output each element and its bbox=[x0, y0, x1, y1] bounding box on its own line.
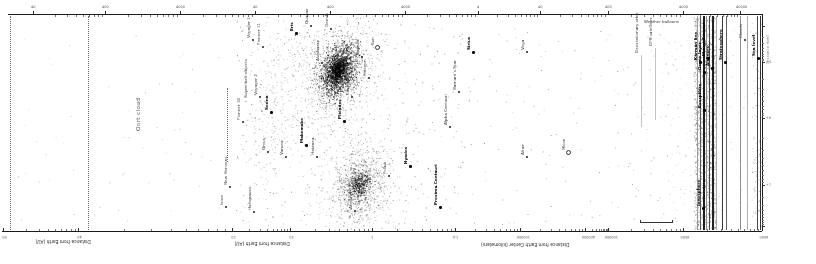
top-axis-minor-tick bbox=[676, 15, 677, 17]
bottom-axis-major-tick bbox=[372, 228, 373, 231]
right-axis-minor-tick bbox=[762, 106, 764, 107]
object-marker-dot bbox=[351, 96, 353, 98]
top-axis-minor-tick bbox=[601, 15, 602, 17]
right-axis-minor-tick bbox=[762, 170, 764, 171]
top-axis-minor-tick bbox=[366, 15, 367, 17]
altitude-line bbox=[740, 16, 741, 230]
object-label: Haumea bbox=[311, 138, 315, 155]
top-axis-minor-tick bbox=[238, 15, 239, 17]
bottom-axis-minor-tick bbox=[596, 229, 597, 231]
top-axis-minor-tick bbox=[313, 15, 314, 17]
bottom-axis-major-tick bbox=[585, 228, 586, 231]
right-axis-minor-tick bbox=[762, 175, 764, 176]
top-axis-minor-tick bbox=[737, 15, 738, 17]
top-axis-minor-tick bbox=[467, 15, 468, 17]
bottom-axis-minor-tick bbox=[26, 229, 27, 231]
bottom-axis-minor-tick bbox=[510, 229, 511, 231]
object-label: Alpha Centauri bbox=[444, 94, 448, 125]
range-bracket bbox=[640, 220, 673, 223]
bottom-axis-tick-label: 10 bbox=[289, 235, 293, 239]
top-axis-minor-tick bbox=[734, 15, 735, 17]
top-axis-minor-tick bbox=[98, 15, 99, 17]
bottom-axis-minor-tick bbox=[260, 229, 261, 231]
bottom-axis-minor-tick bbox=[631, 229, 632, 231]
top-axis-tick-label: 4000 bbox=[401, 5, 410, 9]
bottom-axis-minor-tick bbox=[707, 229, 708, 231]
object-marker-dot bbox=[449, 126, 451, 128]
bottom-axis-minor-tick bbox=[565, 229, 566, 231]
top-axis-minor-tick bbox=[597, 15, 598, 17]
object-marker-dot bbox=[702, 207, 705, 210]
object-marker-dot bbox=[285, 156, 287, 158]
bottom-axis-minor-tick bbox=[540, 229, 541, 231]
top-axis-minor-tick bbox=[393, 15, 394, 17]
top-axis-minor-tick bbox=[717, 15, 718, 17]
top-axis-tick-label: 40 bbox=[538, 5, 542, 9]
top-axis-minor-tick bbox=[440, 15, 441, 17]
object-marker-dot bbox=[262, 46, 264, 48]
object-marker-dot bbox=[242, 121, 244, 123]
bottom-axis-minor-tick bbox=[368, 229, 369, 231]
bottom-axis-minor-tick bbox=[750, 229, 751, 231]
right-axis-tick-label: +7 bbox=[766, 183, 771, 187]
bottom-axis-major-tick bbox=[78, 228, 79, 231]
top-axis-minor-tick bbox=[94, 15, 95, 17]
object-label: Aldebaran bbox=[316, 40, 320, 61]
top-axis-major-tick bbox=[478, 11, 479, 14]
object-marker-dot bbox=[703, 71, 706, 74]
top-axis-minor-tick bbox=[526, 15, 527, 17]
right-axis-minor-tick bbox=[762, 56, 764, 57]
bottom-axis-minor-tick bbox=[364, 229, 365, 231]
right-axis-minor-tick bbox=[762, 48, 764, 49]
top-axis-minor-tick bbox=[102, 15, 103, 17]
top-axis-minor-tick bbox=[588, 15, 589, 17]
object-label: Capella bbox=[356, 39, 360, 55]
object-label: Weather balloons bbox=[644, 20, 679, 24]
bottom-axis-title: Distance from Earth Center (kilometers) bbox=[481, 242, 569, 246]
top-axis-minor-tick bbox=[388, 15, 389, 17]
right-axis-minor-tick bbox=[762, 150, 764, 151]
bottom-axis-minor-tick bbox=[447, 229, 448, 231]
top-axis-minor-tick bbox=[128, 15, 129, 17]
right-axis-minor-tick bbox=[762, 179, 764, 180]
bottom-axis-major-tick bbox=[232, 228, 233, 231]
object-marker-line bbox=[655, 48, 656, 120]
object-marker-dot bbox=[229, 186, 231, 188]
altitude-line bbox=[760, 16, 761, 230]
bottom-axis-tick-label: 100000 bbox=[604, 235, 617, 239]
object-label: Voyager 1 bbox=[247, 17, 251, 38]
bottom-axis-minor-tick bbox=[186, 229, 187, 231]
object-label: Distance (km) bbox=[766, 35, 770, 64]
bottom-axis-minor-tick bbox=[437, 229, 438, 231]
top-axis-minor-tick bbox=[168, 15, 169, 17]
right-axis-minor-tick bbox=[762, 96, 764, 97]
bottom-axis-tick-label: 400000 bbox=[581, 235, 594, 239]
top-axis-minor-tick bbox=[572, 15, 573, 17]
dotted-guide-line bbox=[227, 88, 228, 162]
bottom-axis-minor-tick bbox=[486, 229, 487, 231]
object-marker-dot bbox=[330, 28, 332, 30]
right-axis-minor-tick bbox=[762, 51, 764, 52]
top-axis-minor-tick bbox=[382, 15, 383, 17]
object-marker-line bbox=[641, 55, 642, 127]
object-label: Heliopause bbox=[248, 187, 252, 210]
bottom-axis-major-tick bbox=[608, 228, 609, 231]
bottom-axis-tick-label: 1.6 bbox=[453, 235, 459, 239]
object-label: Sirius bbox=[467, 37, 471, 50]
top-axis-minor-tick bbox=[475, 15, 476, 17]
object-label: Sedna bbox=[265, 95, 269, 110]
object-label: Castor bbox=[346, 81, 350, 95]
top-axis-minor-tick bbox=[55, 15, 56, 17]
top-axis-major-tick bbox=[608, 11, 609, 14]
object-label: Proxima Centauri bbox=[434, 164, 438, 205]
object-marker-dot bbox=[225, 206, 227, 208]
object-label: Altair bbox=[521, 144, 525, 155]
top-axis-minor-tick bbox=[278, 15, 279, 17]
top-axis-major-tick bbox=[540, 11, 541, 14]
object-label: Sun bbox=[371, 37, 375, 45]
object-marker-dot bbox=[270, 111, 273, 114]
object-marker-dot bbox=[439, 206, 442, 209]
top-axis-major-tick bbox=[105, 11, 106, 14]
bottom-axis-minor-tick bbox=[171, 229, 172, 231]
object-label: Arcturus bbox=[349, 191, 353, 209]
